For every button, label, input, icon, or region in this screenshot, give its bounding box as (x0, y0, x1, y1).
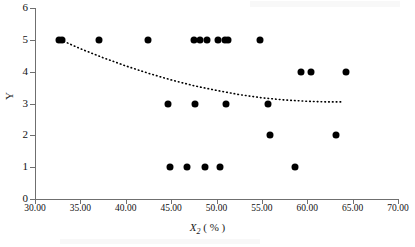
scatter-plot-figure: 0123456 30.0035.0040.0045.0050.0055.0060… (0, 0, 415, 247)
x-tick-label-40.00: 40.00 (100, 203, 152, 214)
data-point (333, 132, 340, 139)
data-point (201, 164, 208, 171)
data-point (343, 68, 350, 75)
data-point (191, 100, 198, 107)
data-point (225, 36, 232, 43)
data-point (95, 36, 102, 43)
x-tick-label-60.00: 60.00 (281, 203, 333, 214)
y-tick-1 (30, 167, 36, 168)
x-axis-title-subscript: 2 (196, 227, 200, 236)
x-axis-title: X2 ( % ) (0, 221, 415, 236)
data-point (257, 36, 264, 43)
x-tick-label-70.00: 70.00 (372, 203, 415, 214)
y-tick-label-5: 5 (6, 34, 28, 45)
y-axis-title: Y (3, 92, 15, 100)
plot-area: 0123456 30.0035.0040.0045.0050.0055.0060… (0, 0, 415, 247)
y-tick-label-1: 1 (6, 161, 28, 172)
data-point (165, 100, 172, 107)
y-tick-2 (30, 135, 36, 136)
data-point (267, 132, 274, 139)
y-tick-4 (30, 72, 36, 73)
data-point (167, 164, 174, 171)
x-tick-label-50.00: 50.00 (191, 203, 243, 214)
data-point (217, 164, 224, 171)
x-tick-label-45.00: 45.00 (145, 203, 197, 214)
x-tick-label-35.00: 35.00 (54, 203, 106, 214)
x-tick-label-30.00: 30.00 (9, 203, 61, 214)
data-point (297, 68, 304, 75)
y-tick-label-6: 6 (6, 2, 28, 13)
data-point (291, 164, 298, 171)
data-point (265, 100, 272, 107)
y-tick-3 (30, 104, 36, 105)
x-tick-label-65.00: 65.00 (327, 203, 379, 214)
data-point (307, 68, 314, 75)
y-tick-label-4: 4 (6, 66, 28, 77)
data-point (144, 36, 151, 43)
y-tick-label-2: 2 (6, 129, 28, 140)
data-point (223, 100, 230, 107)
x-tick-label-55.00: 55.00 (236, 203, 288, 214)
x-axis-title-unit: ( % ) (203, 221, 225, 233)
y-tick-6 (30, 8, 36, 9)
data-point (203, 36, 210, 43)
data-point (59, 36, 66, 43)
data-point (183, 164, 190, 171)
y-tick-5 (30, 40, 36, 41)
